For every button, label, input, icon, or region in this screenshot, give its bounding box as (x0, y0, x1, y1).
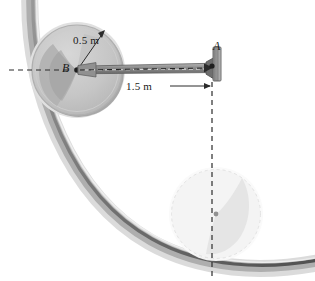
mechanics-diagram-svg (0, 0, 315, 281)
ghost-disk-center-dot (214, 212, 219, 217)
pin-at-a (209, 63, 214, 68)
label-rod-length: 1.5 m (124, 81, 154, 92)
figure-container: A B 0.5 m 1.5 m (0, 0, 315, 281)
label-disk-radius: 0.5 m (73, 35, 99, 46)
label-point-a: A (213, 40, 220, 52)
label-point-b: B (62, 62, 69, 74)
dimension-arrow-right (204, 83, 211, 89)
ghost-disk-group (169, 167, 263, 261)
